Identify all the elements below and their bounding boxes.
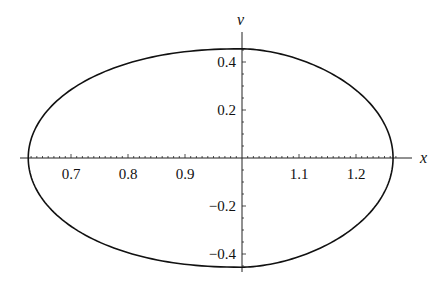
x-tick-label: 0.7 <box>62 166 81 182</box>
x-tick-label: 1.2 <box>347 166 366 182</box>
y-tick-label: −0.4 <box>209 246 237 262</box>
x-tick-label: 0.8 <box>119 166 138 182</box>
y-axis-label: v <box>237 11 245 28</box>
phase-plot: 0.70.80.91.11.2 0.40.2−0.2−0.4 x v <box>0 0 438 288</box>
y-tick-label: 0.4 <box>217 54 236 70</box>
y-tick-label: 0.2 <box>217 102 236 118</box>
y-tick-label: −0.2 <box>209 198 236 214</box>
x-axis-label: x <box>419 149 427 166</box>
x-tick-label: 1.1 <box>290 166 309 182</box>
x-tick-label: 0.9 <box>176 166 195 182</box>
